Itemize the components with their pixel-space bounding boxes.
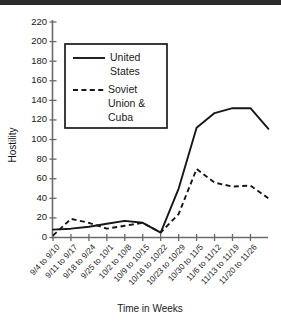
- hostility-line-chart: 020406080100120140160180200220 9/4 to 9/…: [0, 0, 281, 325]
- chart-legend: United States Soviet Union & Cuba: [65, 44, 167, 128]
- legend-label-su-line2: Union &: [108, 97, 145, 109]
- y-tick-label: 200: [31, 35, 47, 46]
- y-tick-label: 60: [36, 172, 47, 183]
- y-axis-tick-labels: 020406080100120140160180200220: [31, 16, 47, 243]
- chart-plot-area: 020406080100120140160180200220 9/4 to 9/…: [0, 0, 281, 325]
- y-tick-label: 140: [31, 94, 47, 105]
- x-axis: 9/4 to 9/109/11 to 9/179/18 to 9/249/25 …: [28, 234, 268, 287]
- y-tick-label: 220: [31, 16, 47, 27]
- series-line-soviet-union-cuba: [53, 169, 268, 236]
- y-tick-label: 100: [31, 133, 47, 144]
- y-axis-title: Hostility: [7, 127, 18, 162]
- y-axis: 020406080100120140160180200220: [31, 16, 56, 243]
- legend-label-su-line3: Cuba: [108, 111, 133, 123]
- x-axis-tick-labels: 9/4 to 9/109/11 to 9/179/18 to 9/249/25 …: [28, 242, 259, 287]
- legend-label-us-line1: United: [110, 51, 141, 63]
- y-tick-label: 20: [36, 211, 47, 222]
- y-tick-label: 0: [42, 231, 47, 242]
- y-tick-label: 80: [36, 153, 47, 164]
- legend-label-us-line2: States: [110, 65, 140, 77]
- x-axis-title: Time in Weeks: [117, 303, 183, 314]
- y-tick-label: 180: [31, 55, 47, 66]
- y-tick-label: 160: [31, 74, 47, 85]
- y-tick-label: 120: [31, 113, 47, 124]
- legend-label-su-line1: Soviet: [108, 83, 137, 95]
- y-tick-label: 40: [36, 192, 47, 203]
